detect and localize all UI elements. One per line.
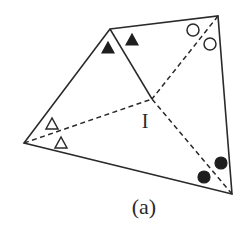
filled-triangle-icon bbox=[102, 42, 114, 53]
open-triangle-icon bbox=[55, 137, 67, 148]
open-circle-icon bbox=[187, 24, 199, 36]
bisector-top-right bbox=[152, 16, 218, 99]
figure-caption: (a) bbox=[132, 194, 156, 219]
open-triangle-icon bbox=[46, 118, 58, 129]
bisector-bottom-right bbox=[152, 99, 232, 194]
filled-circle-icon bbox=[215, 157, 227, 169]
open-circle-icon bbox=[204, 38, 216, 50]
center-label: I bbox=[142, 110, 149, 132]
filled-triangle-icon bbox=[126, 34, 138, 45]
filled-circle-icon bbox=[198, 171, 210, 183]
bisector-left bbox=[24, 99, 152, 143]
quadrilateral-diagram: I (a) bbox=[0, 0, 252, 233]
